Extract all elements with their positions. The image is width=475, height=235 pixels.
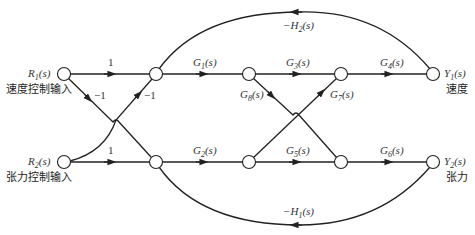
- node-n1: [150, 68, 163, 81]
- g7-main: G: [330, 88, 338, 100]
- g2-main: G: [193, 144, 201, 156]
- gain-g3: G3(s): [286, 57, 310, 71]
- gain-g6: G6(s): [380, 145, 404, 159]
- node-y1: [427, 68, 440, 81]
- node-m1: [150, 156, 163, 169]
- node-n2: [243, 68, 256, 81]
- g6-tail: (s): [392, 144, 404, 156]
- label-y1: Y1(s): [444, 68, 466, 82]
- label-r1: R1(s): [28, 68, 50, 82]
- g1-tail: (s): [205, 56, 217, 68]
- gain-g5: G5(s): [286, 145, 310, 159]
- node-m3: [335, 156, 348, 169]
- h2-tail: (s): [302, 19, 314, 31]
- gain-neg-one-right: −1: [144, 90, 156, 101]
- gain-one-top: 1: [108, 57, 114, 68]
- label-r1-cn: 速度控制输入: [6, 84, 72, 95]
- g4-main: G: [380, 56, 388, 68]
- node-n3: [335, 68, 348, 81]
- h1-main: −H: [283, 205, 298, 217]
- g1-main: G: [193, 56, 201, 68]
- g3-tail: (s): [298, 56, 310, 68]
- label-r2-tail: (s): [39, 155, 51, 167]
- label-r1-tail: (s): [39, 67, 51, 79]
- arrow-g8: [268, 92, 272, 96]
- arrow-r1-m1: [85, 95, 89, 99]
- gain-one-bottom: 1: [108, 145, 114, 156]
- label-y2-tail: (s): [454, 155, 466, 167]
- label-y1-cn: 速度: [446, 84, 468, 95]
- arrow-r2-n1: [135, 94, 139, 98]
- g8-tail: (s): [252, 88, 264, 100]
- g7-tail: (s): [342, 88, 354, 100]
- h2-main: −H: [283, 19, 298, 31]
- label-r1-main: R: [28, 67, 35, 79]
- label-y1-tail: (s): [454, 67, 466, 79]
- gain-neg-one-left: −1: [94, 90, 106, 101]
- g5-main: G: [286, 144, 294, 156]
- label-r2: R2(s): [28, 156, 50, 170]
- node-y2: [427, 156, 440, 169]
- node-r1: [58, 68, 71, 81]
- h1-tail: (s): [302, 205, 314, 217]
- node-m2: [243, 156, 256, 169]
- gain-g8: G8(s): [240, 89, 264, 103]
- gain-h1: −H1(s): [283, 206, 314, 220]
- g4-tail: (s): [392, 56, 404, 68]
- g5-tail: (s): [298, 144, 310, 156]
- signal-flow-graph: [0, 0, 475, 235]
- label-r2-cn: 张力控制输入: [6, 172, 72, 183]
- gain-h2: −H2(s): [283, 20, 314, 34]
- g2-tail: (s): [205, 144, 217, 156]
- g3-main: G: [286, 56, 294, 68]
- arrow-g7: [318, 92, 322, 96]
- gain-g2: G2(s): [193, 145, 217, 159]
- gain-g1: G1(s): [193, 57, 217, 71]
- label-y2: Y2(s): [444, 156, 466, 170]
- node-r2: [58, 156, 71, 169]
- g6-main: G: [380, 144, 388, 156]
- label-y2-cn: 张力: [446, 172, 468, 183]
- label-r2-main: R: [28, 155, 35, 167]
- gain-g7: G7(s): [330, 89, 354, 103]
- g8-main: G: [240, 88, 248, 100]
- gain-g4: G4(s): [380, 57, 404, 71]
